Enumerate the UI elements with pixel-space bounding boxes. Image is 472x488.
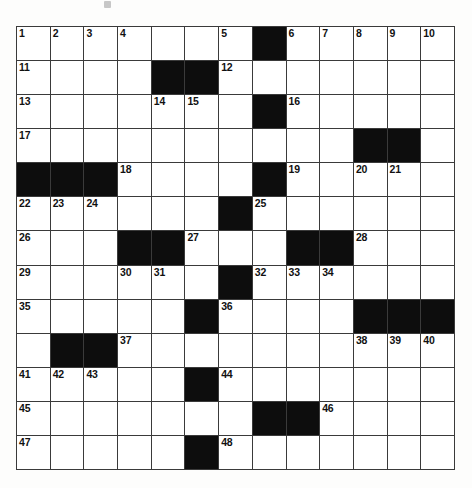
grid-cell[interactable]: 34 <box>320 266 353 299</box>
grid-cell[interactable] <box>421 129 454 162</box>
grid-cell[interactable] <box>287 436 320 469</box>
grid-cell[interactable] <box>84 95 117 128</box>
grid-cell[interactable] <box>152 368 185 401</box>
grid-cell[interactable]: 21 <box>388 163 421 196</box>
grid-cell[interactable] <box>287 368 320 401</box>
grid-cell[interactable]: 41 <box>17 368 50 401</box>
grid-cell[interactable] <box>354 61 387 94</box>
grid-cell[interactable] <box>185 129 218 162</box>
grid-cell[interactable]: 19 <box>287 163 320 196</box>
grid-cell[interactable]: 30 <box>118 266 151 299</box>
grid-cell[interactable] <box>287 300 320 333</box>
grid-cell[interactable] <box>152 334 185 367</box>
grid-cell[interactable]: 18 <box>118 163 151 196</box>
grid-cell[interactable] <box>84 61 117 94</box>
grid-cell[interactable] <box>51 129 84 162</box>
grid-cell[interactable] <box>118 402 151 435</box>
grid-cell[interactable]: 48 <box>219 436 252 469</box>
grid-cell[interactable] <box>185 334 218 367</box>
grid-cell[interactable] <box>118 300 151 333</box>
grid-cell[interactable] <box>320 300 353 333</box>
grid-cell[interactable] <box>421 231 454 264</box>
grid-cell[interactable] <box>84 129 117 162</box>
grid-cell[interactable] <box>84 402 117 435</box>
grid-cell[interactable] <box>253 129 286 162</box>
grid-cell[interactable] <box>17 334 50 367</box>
grid-cell[interactable] <box>421 402 454 435</box>
grid-cell[interactable] <box>152 129 185 162</box>
grid-cell[interactable]: 36 <box>219 300 252 333</box>
grid-cell[interactable] <box>287 129 320 162</box>
grid-cell[interactable] <box>253 231 286 264</box>
grid-cell[interactable]: 39 <box>388 334 421 367</box>
grid-cell[interactable] <box>51 61 84 94</box>
grid-cell[interactable]: 7 <box>320 27 353 60</box>
grid-cell[interactable]: 5 <box>219 27 252 60</box>
grid-cell[interactable] <box>51 436 84 469</box>
grid-cell[interactable] <box>354 368 387 401</box>
grid-cell[interactable] <box>118 61 151 94</box>
grid-cell[interactable] <box>287 61 320 94</box>
grid-cell[interactable] <box>152 300 185 333</box>
grid-cell[interactable] <box>118 436 151 469</box>
grid-cell[interactable]: 45 <box>17 402 50 435</box>
grid-cell[interactable] <box>219 402 252 435</box>
grid-cell[interactable] <box>118 95 151 128</box>
grid-cell[interactable] <box>253 436 286 469</box>
grid-cell[interactable] <box>421 61 454 94</box>
grid-cell[interactable]: 22 <box>17 197 50 230</box>
grid-cell[interactable]: 33 <box>287 266 320 299</box>
grid-cell[interactable]: 17 <box>17 129 50 162</box>
grid-cell[interactable] <box>320 436 353 469</box>
grid-cell[interactable] <box>354 402 387 435</box>
grid-cell[interactable] <box>320 61 353 94</box>
grid-cell[interactable] <box>421 197 454 230</box>
grid-cell[interactable]: 16 <box>287 95 320 128</box>
grid-cell[interactable]: 46 <box>320 402 353 435</box>
grid-cell[interactable]: 40 <box>421 334 454 367</box>
grid-cell[interactable] <box>388 95 421 128</box>
grid-cell[interactable]: 44 <box>219 368 252 401</box>
grid-cell[interactable] <box>84 300 117 333</box>
grid-cell[interactable] <box>388 197 421 230</box>
grid-cell[interactable]: 35 <box>17 300 50 333</box>
grid-cell[interactable] <box>185 27 218 60</box>
grid-cell[interactable] <box>253 334 286 367</box>
grid-cell[interactable] <box>152 27 185 60</box>
grid-cell[interactable] <box>185 163 218 196</box>
grid-cell[interactable] <box>388 231 421 264</box>
grid-cell[interactable]: 27 <box>185 231 218 264</box>
grid-cell[interactable] <box>84 231 117 264</box>
grid-cell[interactable]: 4 <box>118 27 151 60</box>
grid-cell[interactable] <box>219 95 252 128</box>
grid-cell[interactable]: 26 <box>17 231 50 264</box>
grid-cell[interactable] <box>320 129 353 162</box>
grid-cell[interactable] <box>354 197 387 230</box>
grid-cell[interactable] <box>320 163 353 196</box>
grid-cell[interactable]: 23 <box>51 197 84 230</box>
grid-cell[interactable] <box>84 266 117 299</box>
grid-cell[interactable] <box>51 402 84 435</box>
grid-cell[interactable] <box>253 300 286 333</box>
grid-cell[interactable]: 11 <box>17 61 50 94</box>
grid-cell[interactable] <box>219 129 252 162</box>
grid-cell[interactable]: 38 <box>354 334 387 367</box>
grid-cell[interactable] <box>219 334 252 367</box>
grid-cell[interactable]: 47 <box>17 436 50 469</box>
grid-cell[interactable]: 3 <box>84 27 117 60</box>
grid-cell[interactable] <box>287 334 320 367</box>
grid-cell[interactable] <box>253 368 286 401</box>
grid-cell[interactable] <box>118 129 151 162</box>
grid-cell[interactable]: 29 <box>17 266 50 299</box>
grid-cell[interactable] <box>320 197 353 230</box>
grid-cell[interactable]: 15 <box>185 95 218 128</box>
crossword-grid[interactable]: 1234567891011121314151617181920212223242… <box>16 26 455 470</box>
grid-cell[interactable] <box>421 163 454 196</box>
grid-cell[interactable] <box>51 231 84 264</box>
grid-cell[interactable]: 10 <box>421 27 454 60</box>
grid-cell[interactable] <box>421 368 454 401</box>
grid-cell[interactable]: 13 <box>17 95 50 128</box>
grid-cell[interactable]: 8 <box>354 27 387 60</box>
grid-cell[interactable] <box>51 300 84 333</box>
grid-cell[interactable] <box>320 95 353 128</box>
